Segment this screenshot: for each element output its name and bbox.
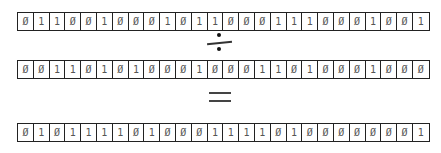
bit-cell: 1 <box>113 124 129 141</box>
bit-cell: 1 <box>302 61 318 78</box>
bit-cell: Ø <box>81 13 97 30</box>
bit-cell: 1 <box>223 124 239 141</box>
bit-cell: Ø <box>18 13 34 30</box>
bit-cell: Ø <box>144 13 160 30</box>
bit-cell: Ø <box>381 61 397 78</box>
bit-cell: 1 <box>97 124 113 141</box>
bit-cell: 1 <box>271 61 287 78</box>
bit-cell: Ø <box>160 61 176 78</box>
bit-cell: 1 <box>50 13 66 30</box>
bit-cell: 1 <box>366 13 382 30</box>
equals-sign-icon <box>190 90 250 106</box>
bit-cell: 1 <box>255 124 271 141</box>
bit-cell: Ø <box>318 13 334 30</box>
bit-cell: Ø <box>302 124 318 141</box>
divisor-bit-row: ØØ11Ø1Ø1ØØØ1ØØØ11Ø1ØØØ1ØØØ <box>17 60 430 79</box>
bit-cell: Ø <box>350 61 366 78</box>
bit-cell: Ø <box>18 61 34 78</box>
bit-cell: Ø <box>397 124 413 141</box>
divide-top-dot <box>217 33 221 37</box>
bit-cell: 1 <box>302 13 318 30</box>
bit-cell: Ø <box>34 61 50 78</box>
equals-top-line <box>209 92 231 94</box>
bit-cell: 1 <box>65 61 81 78</box>
bit-cell: 1 <box>50 61 66 78</box>
bit-cell: Ø <box>129 13 145 30</box>
bit-cell: Ø <box>176 61 192 78</box>
equals-bottom-line <box>209 100 231 102</box>
bit-cell: Ø <box>208 61 224 78</box>
bit-cell: Ø <box>397 61 413 78</box>
bit-cell: Ø <box>113 61 129 78</box>
bit-cell: 1 <box>192 13 208 30</box>
bit-cell: Ø <box>397 13 413 30</box>
bit-cell: Ø <box>334 13 350 30</box>
bit-cell: Ø <box>18 124 34 141</box>
bit-cell: 1 <box>81 124 97 141</box>
bit-cell: Ø <box>255 13 271 30</box>
bit-cell: Ø <box>350 124 366 141</box>
bit-cell: Ø <box>223 13 239 30</box>
bit-cell: Ø <box>129 124 145 141</box>
bit-cell: 1 <box>413 13 429 30</box>
bit-cell: 1 <box>144 124 160 141</box>
bit-cell: Ø <box>334 61 350 78</box>
bit-cell: Ø <box>318 61 334 78</box>
bit-cell: Ø <box>176 124 192 141</box>
bit-cell: Ø <box>239 61 255 78</box>
bit-cell: Ø <box>366 124 382 141</box>
bit-cell: 1 <box>34 124 50 141</box>
bit-cell: Ø <box>381 124 397 141</box>
result-bit-row: Ø1Ø1111Ø1ØØØ1111Ø1ØØØØØØØ1 <box>17 123 430 142</box>
bit-cell: 1 <box>34 13 50 30</box>
bit-cell: Ø <box>176 13 192 30</box>
bit-cell: Ø <box>239 13 255 30</box>
bit-cell: 1 <box>287 13 303 30</box>
bit-cell: Ø <box>113 13 129 30</box>
bit-cell: Ø <box>81 61 97 78</box>
bit-cell: Ø <box>413 61 429 78</box>
bit-cell: 1 <box>239 124 255 141</box>
bit-cell: Ø <box>160 124 176 141</box>
bit-cell: 1 <box>287 124 303 141</box>
bit-cell: Ø <box>334 124 350 141</box>
bit-cell: 1 <box>129 61 145 78</box>
bit-cell: Ø <box>223 61 239 78</box>
bit-cell: 1 <box>271 13 287 30</box>
bit-cell: 1 <box>413 124 429 141</box>
dividend-bit-row: Ø11ØØ1ØØØ1Ø11ØØØ111ØØØ1ØØ1 <box>17 12 430 31</box>
bit-cell: 1 <box>97 61 113 78</box>
divide-sign-icon <box>190 33 250 55</box>
bit-cell: Ø <box>192 124 208 141</box>
bit-cell: Ø <box>350 13 366 30</box>
bit-cell: Ø <box>381 13 397 30</box>
bit-cell: Ø <box>287 61 303 78</box>
bit-cell: Ø <box>318 124 334 141</box>
bit-cell: 1 <box>255 61 271 78</box>
bit-cell: 1 <box>160 13 176 30</box>
bit-cell: Ø <box>50 124 66 141</box>
divide-bar <box>207 41 232 45</box>
bit-cell: Ø <box>144 61 160 78</box>
bit-cell: 1 <box>65 124 81 141</box>
bit-cell: 1 <box>208 13 224 30</box>
bit-cell: 1 <box>192 61 208 78</box>
bit-cell: 1 <box>97 13 113 30</box>
bit-cell: 1 <box>366 61 382 78</box>
bit-cell: 1 <box>208 124 224 141</box>
bit-cell: Ø <box>65 13 81 30</box>
bit-cell: Ø <box>271 124 287 141</box>
divide-bottom-dot <box>217 47 221 51</box>
